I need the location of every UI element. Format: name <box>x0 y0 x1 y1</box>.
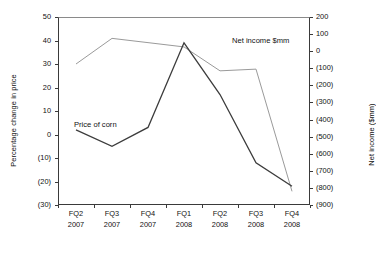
right-tick-mark <box>310 85 313 86</box>
right-tick-mark <box>310 120 313 121</box>
x-tick-mark <box>58 205 59 208</box>
right-tick-mark <box>310 188 313 189</box>
series-line-net-income <box>76 38 292 191</box>
left-tick-label: 20 <box>23 84 51 92</box>
right-tick-mark <box>310 17 313 18</box>
series-line-price-of-corn <box>76 43 292 186</box>
x-tick-mark <box>130 205 131 208</box>
right-tick-label: (200) <box>316 81 350 89</box>
x-tick-mark <box>310 205 311 208</box>
right-axis-title: Net income ($mm) <box>367 70 376 200</box>
right-tick-label: (900) <box>316 201 350 209</box>
right-tick-label: (300) <box>316 98 350 106</box>
series-annotation-price-of-corn: Price of corn <box>74 120 117 129</box>
right-tick-mark <box>310 154 313 155</box>
series-annotation-net-income: Net income $mm <box>232 36 289 45</box>
right-tick-label: (100) <box>316 64 350 72</box>
left-tick-label: 30 <box>23 60 51 68</box>
right-tick-label: (500) <box>316 133 350 141</box>
x-tick-mark <box>94 205 95 208</box>
right-tick-mark <box>310 51 313 52</box>
x-axis-label: FQ42008 <box>270 209 314 230</box>
x-tick-mark <box>238 205 239 208</box>
left-tick-label: (10) <box>23 154 51 162</box>
left-tick-label: 50 <box>23 13 51 21</box>
x-axis-label-year: 2008 <box>270 220 314 231</box>
x-tick-mark <box>202 205 203 208</box>
right-tick-mark <box>310 34 313 35</box>
right-tick-label: (700) <box>316 167 350 175</box>
right-tick-label: 200 <box>316 13 350 21</box>
left-tick-label: 0 <box>23 131 51 139</box>
right-tick-mark <box>310 102 313 103</box>
series-plot-svg <box>58 17 310 205</box>
left-tick-label: 40 <box>23 37 51 45</box>
right-tick-label: (400) <box>316 116 350 124</box>
right-tick-mark <box>310 137 313 138</box>
right-tick-label: (800) <box>316 184 350 192</box>
right-tick-label: 0 <box>316 47 350 55</box>
left-tick-label: 10 <box>23 107 51 115</box>
left-tick-label: (30) <box>23 201 51 209</box>
right-tick-label: 100 <box>316 30 350 38</box>
right-tick-label: (600) <box>316 150 350 158</box>
x-tick-mark <box>166 205 167 208</box>
left-tick-label: (20) <box>23 178 51 186</box>
left-axis-title: Percentage change in price <box>9 56 18 186</box>
right-tick-mark <box>310 68 313 69</box>
x-axis-label-quarter: FQ4 <box>270 209 314 220</box>
x-tick-mark <box>274 205 275 208</box>
right-tick-mark <box>310 171 313 172</box>
